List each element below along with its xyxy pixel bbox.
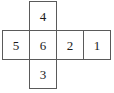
- net-cell-middle-center-label: 6: [40, 38, 47, 51]
- net-cell-bottom-label: 3: [40, 67, 47, 80]
- net-cell-middle-far-right: 1: [83, 30, 111, 60]
- net-cell-middle-far-right-label: 1: [94, 38, 101, 51]
- net-cell-bottom: 3: [29, 59, 57, 89]
- net-cell-middle-left-label: 5: [13, 38, 20, 51]
- net-cell-middle-left: 5: [2, 30, 30, 60]
- cube-net-diagram: 4 5 6 2 1 3: [0, 0, 114, 93]
- net-cell-middle-center: 6: [29, 30, 57, 60]
- net-cell-middle-right: 2: [56, 30, 84, 60]
- net-cell-top: 4: [29, 1, 57, 31]
- net-cell-top-label: 4: [40, 9, 47, 22]
- net-cell-middle-right-label: 2: [67, 38, 74, 51]
